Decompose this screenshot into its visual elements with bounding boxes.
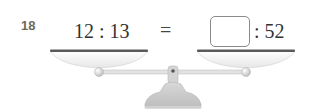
balance-scale-icon (0, 0, 312, 112)
scale-base (145, 82, 201, 108)
right-pan (197, 50, 295, 69)
left-pan (50, 50, 148, 69)
